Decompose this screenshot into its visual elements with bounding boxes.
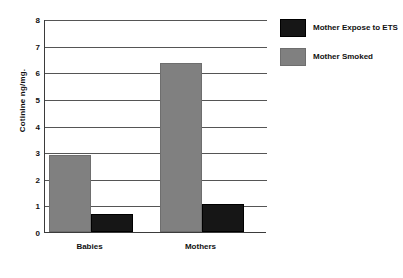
- y-axis-tick-label: 3: [36, 149, 40, 158]
- bar-babies-mother-smoked: [49, 155, 91, 232]
- y-axis-tick-label: 0: [36, 229, 40, 238]
- x-axis-category-label-babies: Babies: [76, 242, 102, 251]
- y-axis-tick-label: 2: [36, 175, 40, 184]
- legend-item-ets: Mother Expose to ETS: [280, 19, 398, 37]
- legend-label-smoked: Mother Smoked: [313, 53, 373, 61]
- gridline: [45, 47, 267, 48]
- plot-area: 012345678: [44, 20, 266, 233]
- y-axis-tick-label: 7: [36, 42, 40, 51]
- legend-label-ets: Mother Expose to ETS: [313, 24, 398, 32]
- y-axis-tick-label: 1: [36, 202, 40, 211]
- gridline: [45, 20, 267, 21]
- x-axis-category-label-mothers: Mothers: [185, 242, 216, 251]
- bar-mothers-mother-smoked: [160, 63, 202, 232]
- y-axis-tick-label: 6: [36, 69, 40, 78]
- y-axis-title: Cotinine ng/mg.: [18, 41, 27, 161]
- gridline: [45, 127, 267, 128]
- y-axis-tick-label: 8: [36, 16, 40, 25]
- bar-mothers-mother-expose-to-ets: [202, 204, 244, 232]
- gridline: [45, 73, 267, 74]
- black-swatch: [280, 19, 306, 37]
- gray-swatch: [280, 48, 306, 66]
- gridline: [45, 100, 267, 101]
- bar-chart: Cotinine ng/mg. 012345678 Mother Expose …: [0, 0, 403, 278]
- y-axis-tick-label: 5: [36, 95, 40, 104]
- bar-babies-mother-expose-to-ets: [91, 214, 133, 232]
- legend-item-smoked: Mother Smoked: [280, 48, 373, 66]
- y-axis-tick-label: 4: [36, 122, 40, 131]
